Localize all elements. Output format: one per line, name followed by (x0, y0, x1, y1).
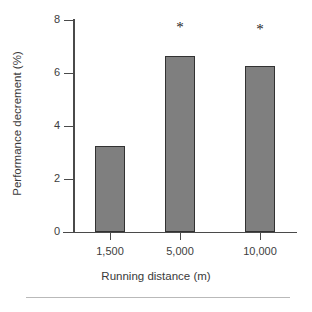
bar-5000 (165, 56, 195, 232)
x-axis-tick-label-5000: 5,000 (145, 245, 215, 257)
y-axis-tick-8 (64, 20, 74, 22)
y-axis-tick-label-0: 0 (38, 226, 60, 237)
y-axis-tick-label-6: 6 (38, 67, 60, 78)
x-axis-tick-label-10000: 10,000 (225, 245, 295, 257)
x-axis-title: Running distance (m) (0, 270, 312, 283)
y-axis-tick-label-2: 2 (38, 173, 60, 184)
y-axis-tick-4 (64, 126, 74, 128)
significance-marker-5000: * (170, 20, 190, 35)
y-axis-tick-2 (64, 179, 74, 181)
bar-10000 (245, 66, 275, 232)
caption-divider (26, 297, 290, 298)
y-axis-tick-label-4: 4 (38, 120, 60, 131)
y-axis-tick-6 (64, 73, 74, 75)
y-axis-tick-label-8: 8 (38, 14, 60, 25)
y-axis-title: Performance decrement (%) (11, 24, 24, 224)
significance-marker-10000: * (250, 22, 270, 37)
x-axis-tick-label-1500: 1,500 (75, 245, 145, 257)
x-axis-tick-1500 (110, 232, 112, 240)
figure-container: 8 6 4 2 0 1,500 5,000 10,000 * * Perform… (0, 0, 312, 312)
bar-1500 (95, 146, 125, 232)
y-axis-tick-0 (64, 232, 74, 234)
x-axis-tick-5000 (180, 232, 182, 240)
x-axis-tick-10000 (260, 232, 262, 240)
